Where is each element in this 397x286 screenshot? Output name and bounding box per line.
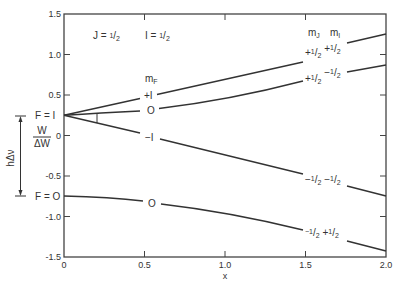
- y-label-denominator: ΔW: [34, 138, 51, 149]
- x-tick-label: 0: [61, 260, 66, 270]
- x-axis-label: x: [223, 271, 228, 281]
- state-label-mp: −1/2 +1/2: [305, 227, 339, 239]
- F0-label: F = O: [35, 191, 61, 202]
- y-axis-ticks: [64, 55, 70, 217]
- i-value: I = 1/2: [145, 30, 170, 42]
- series-lines: [64, 34, 386, 251]
- F-labels: F = I F = O: [35, 110, 61, 202]
- y-tick-label: -1.5: [45, 252, 61, 262]
- mF-0-label: O: [147, 105, 155, 116]
- x-tick-label: 1.0: [219, 260, 232, 270]
- mF-0-lower-label: O: [148, 198, 156, 209]
- x-axis-ticks: [145, 251, 306, 257]
- mJ-header: mJ: [308, 27, 320, 39]
- F1-label: F = I: [35, 110, 55, 121]
- mI-header: mI: [330, 27, 340, 39]
- mF-labels: mF +I O −I O: [144, 73, 158, 209]
- spin-annotation: J = 1/2 I = 1/2: [93, 30, 170, 42]
- mF-header: mF: [145, 73, 158, 85]
- y-tick-labels: 1.5 1.0 0.5 0 -0.5 -1.0 -1.5: [45, 9, 61, 262]
- mF-plus1-label: +I: [144, 90, 153, 101]
- y-tick-label: -0.5: [45, 171, 61, 181]
- mJ-mI-header: mJ mI: [308, 27, 340, 39]
- state-label-mm: −1/2 −1/2: [305, 174, 341, 186]
- y-label-numerator: W: [37, 125, 47, 136]
- state-label-pp: +1/2 +1/2: [305, 43, 341, 59]
- line-F0: [64, 196, 386, 251]
- y-tick-label: 1.0: [48, 50, 61, 60]
- x-tick-labels: 0 0.5 1.0 1.5 2.0: [61, 260, 392, 270]
- j-value: J = 1/2: [93, 30, 120, 42]
- state-label-pm: +1/2 −1/2: [305, 67, 341, 85]
- energy-gap-label: hΔν: [5, 149, 16, 166]
- y-tick-label: -1.0: [45, 212, 61, 222]
- y-tick-label: 1.5: [48, 9, 61, 19]
- y-tick-label: 0: [56, 131, 61, 141]
- x-tick-label: 2.0: [380, 260, 393, 270]
- breit-rabi-chart: 1.5 1.0 0.5 0 -0.5 -1.0 -1.5 0 0.5 1.0 1…: [0, 0, 397, 286]
- mF-minus1-label: −I: [145, 132, 154, 143]
- energy-gap-arrow: [15, 116, 26, 196]
- y-tick-label: 0.5: [48, 90, 61, 100]
- y-axis-label: W ΔW: [33, 125, 51, 149]
- top-axis-ticks: [145, 14, 306, 20]
- state-labels: +1/2 +1/2 +1/2 −1/2 −1/2 −1/2 −1/2 +1/2: [305, 43, 341, 239]
- x-tick-label: 0.5: [138, 260, 151, 270]
- right-axis-ticks: [380, 55, 386, 217]
- x-tick-label: 1.5: [299, 260, 312, 270]
